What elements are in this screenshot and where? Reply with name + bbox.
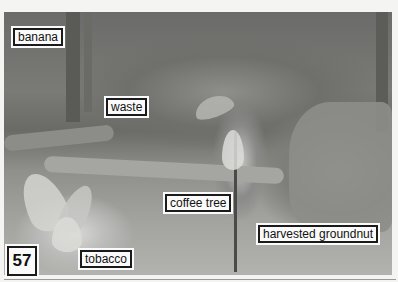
groundnut-pile	[289, 102, 392, 232]
banana-trunk	[66, 12, 80, 122]
coffee-tree-leaf	[222, 130, 244, 170]
label-tobacco: tobacco	[80, 250, 132, 268]
log	[4, 124, 115, 151]
log	[44, 156, 285, 185]
label-banana: banana	[13, 28, 63, 46]
cropped-top-text-fragment	[0, 0, 60, 6]
label-coffee-tree: coffee tree	[165, 194, 231, 212]
page-rule	[4, 279, 396, 280]
label-harvested-groundnut: harvested groundnut	[258, 225, 378, 243]
banana-trunk	[84, 12, 92, 112]
coffee-tree-leaf	[192, 91, 236, 123]
field-photo: banana waste coffee tree harvested groun…	[4, 12, 392, 275]
label-waste: waste	[106, 98, 147, 116]
figure-number: 57	[7, 246, 37, 276]
